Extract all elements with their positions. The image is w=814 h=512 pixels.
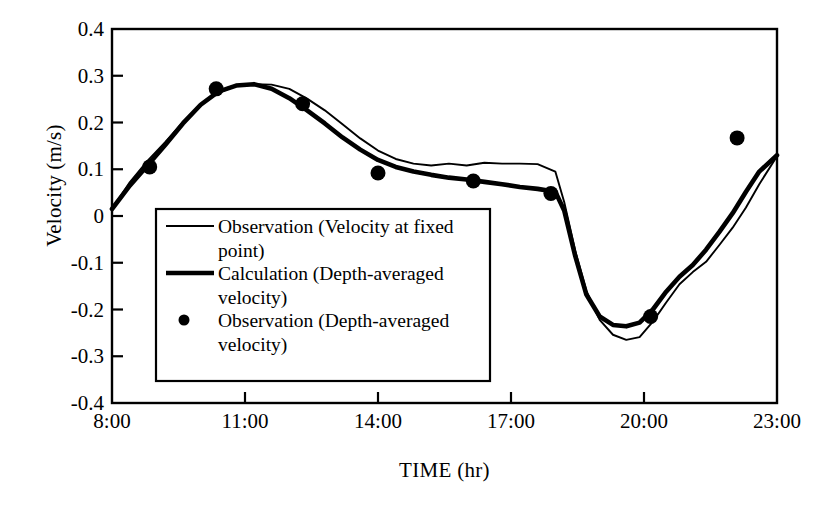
data-point: [209, 81, 224, 96]
legend-label-0: Observation (Velocity at fixed: [218, 216, 454, 238]
legend-box: Observation (Velocity at fixedpoint)Calc…: [156, 209, 490, 381]
caption-ghost: [0, 487, 814, 511]
data-point: [295, 96, 310, 111]
legend-label-1: Calculation (Depth-averaged: [218, 263, 444, 285]
legend-label-0: point): [218, 240, 265, 262]
data-point: [142, 159, 157, 174]
plot-canvas: Observation (Velocity at fixedpoint)Calc…: [0, 0, 814, 512]
y-axis-ticks: [112, 76, 123, 357]
data-point: [371, 165, 386, 180]
data-point: [643, 309, 658, 324]
data-point: [730, 130, 745, 145]
velocity-time-chart: Velocity (m/s) 0.4 0.3 0.2 0.1 0 -0.1 -0…: [0, 0, 814, 512]
legend-label-2: Observation (Depth-averaged: [218, 310, 449, 332]
data-point: [466, 173, 481, 188]
legend-marker-dot: [179, 315, 190, 326]
x-axis-ticks: [245, 392, 644, 403]
legend-label-2: velocity): [218, 334, 287, 356]
data-point: [543, 186, 558, 201]
legend-label-1: velocity): [218, 287, 287, 309]
